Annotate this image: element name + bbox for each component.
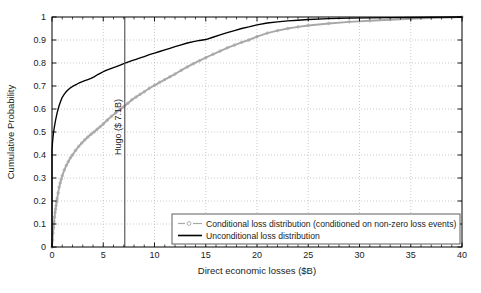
y-tick-label: 0.3: [33, 173, 46, 183]
y-tick-label: 0.7: [33, 81, 46, 91]
y-tick-label: 0: [41, 242, 46, 252]
x-tick-label: 20: [252, 250, 262, 260]
chart-figure: Hugo ($ 7.1B) 051015202530354000.10.20.3…: [0, 0, 481, 293]
x-tick-label: 25: [303, 250, 313, 260]
x-tick-label: 0: [49, 250, 54, 260]
cumulative-probability-chart: Hugo ($ 7.1B) 051015202530354000.10.20.3…: [0, 0, 481, 293]
x-axis-label: Direct economic losses ($B): [198, 265, 316, 276]
y-tick-label: 0.9: [33, 35, 46, 45]
hugo-annotation-label: Hugo ($ 7.1B): [113, 99, 123, 155]
y-tick-label: 0.5: [33, 127, 46, 137]
y-tick-label: 0.8: [33, 58, 46, 68]
x-tick-label: 5: [101, 250, 106, 260]
y-axis-label: Cumulative Probability: [5, 84, 16, 179]
legend-label: Unconditional loss distribution: [206, 231, 320, 241]
x-tick-label: 35: [406, 250, 416, 260]
legend-item-conditional: Conditional loss distribution (condition…: [178, 219, 456, 229]
x-tick-label: 30: [354, 250, 364, 260]
chart-legend: Conditional loss distribution (condition…: [172, 214, 460, 244]
y-tick-label: 0.1: [33, 219, 46, 229]
y-tick-label: 0.6: [33, 104, 46, 114]
y-tick-label: 0.4: [33, 150, 46, 160]
x-tick-label: 15: [201, 250, 211, 260]
legend-label: Conditional loss distribution (condition…: [206, 219, 456, 229]
x-tick-label: 40: [457, 250, 467, 260]
y-tick-label: 1: [41, 12, 46, 22]
x-tick-label: 10: [149, 250, 159, 260]
y-tick-label: 0.2: [33, 196, 46, 206]
